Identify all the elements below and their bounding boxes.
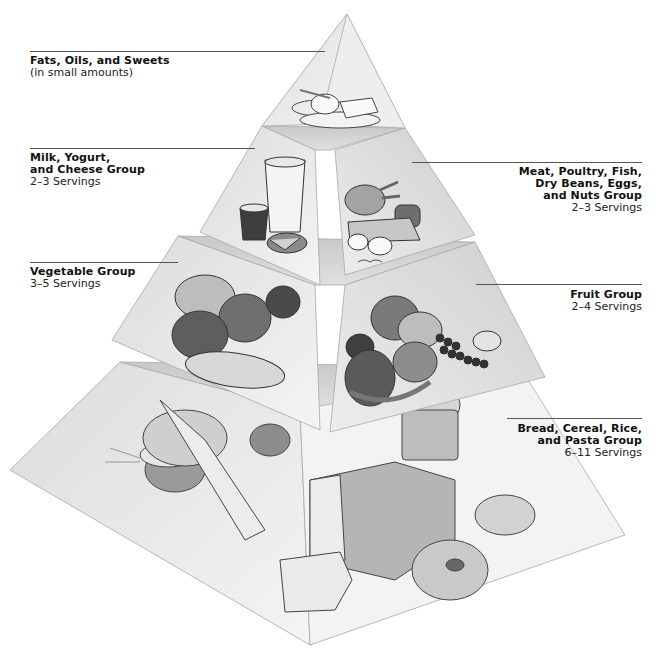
tier-fats [262, 14, 405, 128]
leader-line-milk [30, 148, 255, 149]
label-vegetable: Vegetable Group 3–5 Servings [30, 266, 136, 290]
label-grain-title: Bread, Cereal, Rice, and Pasta Group [517, 423, 642, 447]
leader-line-fruit [476, 284, 642, 285]
label-fats: Fats, Oils, and Sweets (in small amounts… [30, 55, 170, 79]
label-milk: Milk, Yogurt, and Cheese Group 2–3 Servi… [30, 152, 145, 188]
label-fruit: Fruit Group 2–4 Servings [570, 289, 642, 313]
label-fruit-servings: 2–4 Servings [570, 301, 642, 313]
food-pyramid-diagram: Fats, Oils, and Sweets (in small amounts… [0, 0, 656, 651]
label-vegetable-servings: 3–5 Servings [30, 278, 136, 290]
leader-line-meat [412, 162, 642, 163]
pyramid-illustration [0, 0, 656, 651]
label-fats-subtitle: (in small amounts) [30, 67, 170, 79]
label-meat-title: Meat, Poultry, Fish, Dry Beans, Eggs, an… [519, 166, 642, 202]
label-grain: Bread, Cereal, Rice, and Pasta Group 6–1… [517, 423, 642, 459]
label-milk-servings: 2–3 Servings [30, 176, 145, 188]
label-meat-servings: 2–3 Servings [519, 202, 642, 214]
leader-line-vegetable [30, 262, 178, 263]
label-grain-servings: 6–11 Servings [517, 447, 642, 459]
label-meat: Meat, Poultry, Fish, Dry Beans, Eggs, an… [519, 166, 642, 214]
leader-line-fats [30, 51, 325, 52]
label-milk-title: Milk, Yogurt, and Cheese Group [30, 152, 145, 176]
leader-line-grain [507, 418, 642, 419]
